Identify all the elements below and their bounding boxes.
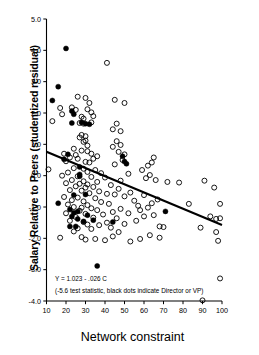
data-point-open xyxy=(58,105,63,110)
data-point-open xyxy=(71,166,76,171)
data-point-filled xyxy=(50,98,55,103)
data-point-open xyxy=(97,189,102,194)
data-point-open xyxy=(110,210,115,215)
data-point-open xyxy=(118,206,123,211)
data-point-filled xyxy=(71,193,76,198)
data-point-open xyxy=(126,211,131,216)
data-point-open xyxy=(89,206,94,211)
equation-annotation: Y = 1.023 - .026 C xyxy=(55,275,107,282)
y-tick-label: -2.0 xyxy=(29,234,41,243)
data-point-open xyxy=(116,149,121,154)
data-point-open xyxy=(110,127,115,132)
x-tick-label: 50 xyxy=(121,306,129,315)
y-tick-label: 1.0 xyxy=(31,140,41,149)
data-point-open xyxy=(83,95,88,100)
data-point-open xyxy=(118,142,123,147)
data-point-open xyxy=(83,237,88,242)
x-tick-label: 20 xyxy=(62,306,70,315)
data-point-filled xyxy=(69,121,74,126)
scatter-plot-figure: Salary Relative to Peers (studentized re… xyxy=(0,0,259,355)
y-tick-label: 2.0 xyxy=(31,109,41,118)
data-point-open xyxy=(62,194,67,199)
data-point-open xyxy=(186,201,191,206)
data-point-filled xyxy=(81,219,86,224)
data-point-open xyxy=(93,196,98,201)
y-tick-label: 5.0 xyxy=(31,15,41,24)
data-point-open xyxy=(112,97,117,102)
data-point-open xyxy=(104,191,109,196)
data-point-open xyxy=(118,129,123,134)
data-point-open xyxy=(177,180,182,185)
data-point-open xyxy=(128,190,133,195)
data-point-open xyxy=(114,216,119,221)
data-point-open xyxy=(145,163,150,168)
axis-group xyxy=(47,19,223,301)
data-point-filled xyxy=(95,263,100,268)
data-point-open xyxy=(85,143,90,148)
data-point-open xyxy=(112,192,117,197)
data-point-open xyxy=(142,214,147,219)
y-tick-label: -4.0 xyxy=(29,297,41,306)
data-point-open xyxy=(64,211,69,216)
data-point-filled xyxy=(110,220,115,225)
x-axis-title: Network constraint xyxy=(40,330,225,344)
data-point-filled xyxy=(120,154,125,159)
data-point-open xyxy=(138,208,143,213)
y-tick-label: 4.0 xyxy=(31,46,41,55)
y-tick-label: 3.0 xyxy=(31,77,41,86)
data-point-open xyxy=(108,183,113,188)
data-point-filled xyxy=(69,214,74,219)
data-point-open xyxy=(147,233,152,238)
data-point-open xyxy=(145,205,150,210)
data-point-open xyxy=(99,199,104,204)
data-point-open xyxy=(104,220,109,225)
data-point-open xyxy=(140,168,145,173)
data-point-open xyxy=(165,179,170,184)
data-point-open xyxy=(95,208,100,213)
data-point-open xyxy=(60,112,65,117)
data-point-open xyxy=(106,201,111,206)
x-tick-label: 90 xyxy=(199,306,207,315)
data-point-open xyxy=(87,100,92,105)
data-point-open xyxy=(65,202,70,207)
data-point-open xyxy=(112,162,117,167)
data-point-open xyxy=(134,218,139,223)
data-point-open xyxy=(218,201,223,206)
data-point-open xyxy=(108,225,113,230)
data-point-filled xyxy=(85,213,90,218)
data-point-open xyxy=(101,212,106,217)
x-tick-label: 100 xyxy=(216,306,228,315)
data-point-filled xyxy=(124,161,129,166)
data-point-open xyxy=(218,276,223,281)
data-point-open xyxy=(214,230,219,235)
data-point-open xyxy=(128,239,133,244)
data-point-open xyxy=(69,178,74,183)
data-points-open-circles xyxy=(46,60,223,303)
x-tick-label: 30 xyxy=(82,306,90,315)
data-point-open xyxy=(110,144,115,149)
data-point-open xyxy=(157,235,162,240)
data-point-filled xyxy=(83,192,88,197)
data-point-open xyxy=(95,179,100,184)
legend-annotation: (-5.6 test statistic, black dots indicat… xyxy=(55,287,203,295)
data-point-filled xyxy=(75,209,80,214)
data-point-open xyxy=(50,119,55,124)
x-tick-label: 10 xyxy=(43,306,51,315)
data-point-open xyxy=(208,214,213,219)
data-point-open xyxy=(116,186,121,191)
plot-canvas: -4.0-3.0-2.0-1.00.01.02.03.04.05.0 10203… xyxy=(0,0,259,355)
data-point-open xyxy=(103,238,108,243)
data-point-open xyxy=(75,94,80,99)
data-point-open xyxy=(67,188,72,193)
data-point-filled xyxy=(77,174,82,179)
x-tick-label: 70 xyxy=(160,306,168,315)
data-point-open xyxy=(151,155,156,160)
data-point-open xyxy=(151,213,156,218)
y-tick-label: -1.0 xyxy=(29,203,41,212)
data-point-open xyxy=(153,178,158,183)
data-point-filled xyxy=(163,209,168,214)
data-point-open xyxy=(132,198,137,203)
data-point-filled xyxy=(75,216,80,221)
data-point-filled xyxy=(67,224,72,229)
y-tick-label: -3.0 xyxy=(29,265,41,274)
